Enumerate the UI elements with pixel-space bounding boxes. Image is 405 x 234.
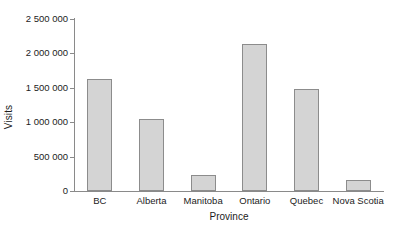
- y-axis-title-text: Visits: [3, 105, 14, 129]
- x-axis-tick-label: Alberta: [136, 195, 166, 207]
- x-axis-tick-label: BC: [93, 195, 106, 207]
- x-axis-title-text: Province: [210, 211, 249, 222]
- x-axis-tick-label: Nova Scotia: [333, 195, 384, 207]
- bar: [346, 180, 371, 191]
- x-axis-tick-label: Ontario: [239, 195, 270, 207]
- x-axis-tick-labels: BCAlbertaManitobaOntarioQuebecNova Scoti…: [74, 195, 384, 209]
- y-axis-tick-label: 2 000 000: [14, 48, 68, 58]
- y-axis-tick-mark: [70, 122, 75, 123]
- bar: [191, 175, 216, 191]
- bar: [242, 44, 267, 191]
- bar: [139, 119, 164, 191]
- plot-area: [74, 19, 384, 191]
- y-axis-tick-mark: [70, 191, 75, 192]
- x-axis-line: [74, 191, 384, 192]
- y-axis-tick-labels: 0500 0001 000 0001 500 0002 000 0002 500…: [14, 0, 68, 234]
- y-axis-tick-label: 1 000 000: [14, 117, 68, 127]
- x-axis-tick-label: Quebec: [290, 195, 323, 207]
- y-axis-tick-label: 1 500 000: [14, 83, 68, 93]
- y-axis-tick-mark: [70, 88, 75, 89]
- y-axis-tick-label: 2 500 000: [14, 14, 68, 24]
- x-axis-tick-label: Manitoba: [184, 195, 223, 207]
- y-axis-tick-mark: [70, 53, 75, 54]
- bar-chart: Visits 0500 0001 000 0001 500 0002 000 0…: [0, 0, 405, 234]
- bar: [87, 79, 112, 191]
- bar: [294, 89, 319, 191]
- y-axis-tick-label: 500 000: [14, 152, 68, 162]
- x-axis-title: Province: [74, 211, 384, 222]
- y-axis-tick-mark: [70, 157, 75, 158]
- y-axis-tick-mark: [70, 19, 75, 20]
- y-axis-tick-label: 0: [14, 186, 68, 196]
